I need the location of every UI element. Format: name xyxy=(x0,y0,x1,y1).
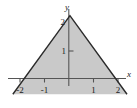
x-tick-label-pos2: 2 xyxy=(111,86,125,95)
shaded-region xyxy=(13,16,127,95)
y-tick-label-2: 2 xyxy=(55,18,65,27)
x-tick-label-neg2: -2 xyxy=(13,86,27,95)
y-axis-label: y xyxy=(65,3,69,12)
math-figure: y x -2 -1 1 2 1 2 xyxy=(0,0,137,108)
x-tick-label-pos1: 1 xyxy=(87,86,101,95)
x-axis-label: x xyxy=(127,70,131,79)
y-tick-label-1: 1 xyxy=(56,47,66,56)
x-tick-label-neg1: -1 xyxy=(38,86,52,95)
